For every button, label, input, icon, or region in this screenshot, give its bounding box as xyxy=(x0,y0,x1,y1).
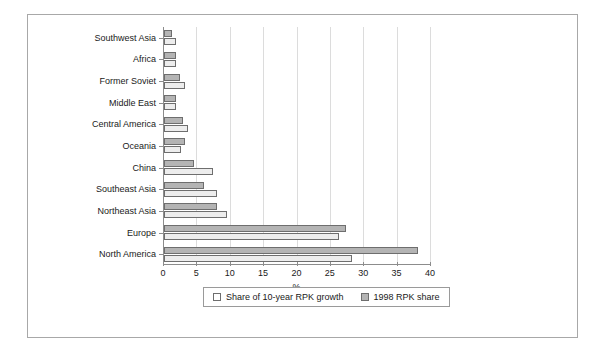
y-axis-category-label: China xyxy=(132,163,156,173)
bar-1998-rpk-share xyxy=(164,138,185,145)
bar-row: Oceania xyxy=(163,135,430,157)
bar-row: Middle East xyxy=(163,92,430,114)
y-axis-tick xyxy=(159,254,163,255)
bar-1998-rpk-share xyxy=(164,74,180,81)
bar-1998-rpk-share xyxy=(164,160,194,167)
y-axis-tick xyxy=(159,189,163,190)
y-axis-category-label: North America xyxy=(99,249,156,259)
y-axis-tick xyxy=(159,146,163,147)
y-axis-category-label: Northeast Asia xyxy=(97,206,156,216)
legend-swatch-icon-light xyxy=(213,293,221,301)
y-axis-category-label: Oceania xyxy=(122,141,156,151)
x-axis-tick-label: 5 xyxy=(194,268,199,278)
y-axis-category-label: Middle East xyxy=(109,98,156,108)
bar-share-of-10-year-rpk-growth xyxy=(164,125,188,132)
bar-share-of-10-year-rpk-growth xyxy=(164,103,176,110)
bar-1998-rpk-share xyxy=(164,52,176,59)
y-axis-category-label: Southeast Asia xyxy=(96,184,156,194)
figure-frame: 0510152025303540 % Southwest AsiaAfricaF… xyxy=(27,14,578,338)
x-axis-tick-label: 15 xyxy=(258,268,268,278)
bar-row: Southeast Asia xyxy=(163,178,430,200)
bar-1998-rpk-share xyxy=(164,182,204,189)
x-axis-tick-label: 35 xyxy=(392,268,402,278)
chart-plot-area: 0510152025303540 % Southwest AsiaAfricaF… xyxy=(163,27,430,265)
bar-row: Central America xyxy=(163,114,430,136)
bar-share-of-10-year-rpk-growth xyxy=(164,82,185,89)
y-axis-category-label: Europe xyxy=(127,228,156,238)
bar-1998-rpk-share xyxy=(164,30,172,37)
bar-1998-rpk-share xyxy=(164,203,217,210)
bar-1998-rpk-share xyxy=(164,117,183,124)
bar-1998-rpk-share xyxy=(164,95,176,102)
y-axis-tick xyxy=(159,59,163,60)
bar-row: Southwest Asia xyxy=(163,27,430,49)
bar-share-of-10-year-rpk-growth xyxy=(164,190,217,197)
bar-1998-rpk-share xyxy=(164,225,346,232)
legend-label: 1998 RPK share xyxy=(374,292,440,302)
legend-item-share-of-10-year-rpk-growth[interactable]: Share of 10-year RPK growth xyxy=(213,292,344,302)
y-axis-category-label: Central America xyxy=(92,119,156,129)
bar-share-of-10-year-rpk-growth xyxy=(164,233,339,240)
bar-row: China xyxy=(163,157,430,179)
legend-label: Share of 10-year RPK growth xyxy=(226,292,344,302)
bar-share-of-10-year-rpk-growth xyxy=(164,211,227,218)
bar-share-of-10-year-rpk-growth xyxy=(164,60,176,67)
y-axis-category-label: Southwest Asia xyxy=(94,33,156,43)
bar-share-of-10-year-rpk-growth xyxy=(164,168,213,175)
y-axis-category-label: Africa xyxy=(133,54,156,64)
legend-item-1998-rpk-share[interactable]: 1998 RPK share xyxy=(361,292,440,302)
y-axis-category-label: Former Soviet xyxy=(99,76,156,86)
chart-legend: Share of 10-year RPK growth 1998 RPK sha… xyxy=(203,287,450,307)
bar-share-of-10-year-rpk-growth xyxy=(164,255,352,262)
y-axis-tick xyxy=(159,124,163,125)
x-axis-tick-label: 30 xyxy=(358,268,368,278)
gridline xyxy=(430,27,431,265)
bar-1998-rpk-share xyxy=(164,247,418,254)
y-axis-tick xyxy=(159,233,163,234)
bar-row: North America xyxy=(163,243,430,265)
y-axis-tick xyxy=(159,38,163,39)
bar-row: Africa xyxy=(163,49,430,71)
y-axis-tick xyxy=(159,168,163,169)
x-axis-tick-label: 25 xyxy=(325,268,335,278)
bar-row: Northeast Asia xyxy=(163,200,430,222)
y-axis-tick xyxy=(159,81,163,82)
bar-share-of-10-year-rpk-growth xyxy=(164,146,181,153)
bar-share-of-10-year-rpk-growth xyxy=(164,38,176,45)
x-axis-tick-label: 0 xyxy=(160,268,165,278)
x-axis-tick-label: 20 xyxy=(291,268,301,278)
y-axis-tick xyxy=(159,211,163,212)
bar-row: Europe xyxy=(163,222,430,244)
x-axis-tick-label: 10 xyxy=(225,268,235,278)
legend-swatch-icon-dark xyxy=(361,293,369,301)
x-axis-tick-label: 40 xyxy=(425,268,435,278)
bar-row: Former Soviet xyxy=(163,70,430,92)
x-axis-tick xyxy=(430,262,431,266)
y-axis-tick xyxy=(159,103,163,104)
